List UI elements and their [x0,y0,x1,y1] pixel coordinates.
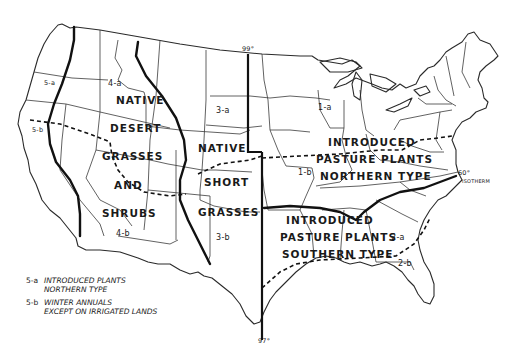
code-4a: 4-a [108,79,122,88]
svg-text:NORTHERN TYPE: NORTHERN TYPE [320,170,432,182]
code-2b: 2-b [398,259,412,268]
svg-text:NATIVE: NATIVE [116,94,164,106]
svg-text:GRASSES: GRASSES [102,150,163,162]
code-5a: 5-a [44,79,55,87]
svg-text:SOUTHERN TYPE: SOUTHERN TYPE [282,248,393,260]
legend-5b-line1: WINTER ANNUALS [44,298,112,307]
code-2a: 2-a [391,233,405,242]
code-1b: 1-b [298,168,312,177]
svg-text:DESERT: DESERT [110,122,161,134]
svg-text:NATIVE: NATIVE [198,142,246,154]
svg-text:PASTURE PLANTS: PASTURE PLANTS [316,153,433,165]
isotherm-degree: 60° [458,169,470,177]
code-1a: 1-a [318,103,332,112]
region-native-desert: NATIVE DESERT GRASSES AND SHRUBS 4-a 4-b [102,79,164,238]
svg-text:SHRUBS: SHRUBS [102,207,157,219]
svg-text:AND: AND [114,179,143,191]
code-5b: 5-b [32,126,43,134]
legend-key-5b: 5-b [26,298,38,307]
svg-text:SHORT: SHORT [204,176,249,188]
isotherm-text: ISOTHERM [462,178,490,184]
sub-boundary-3a-3b [198,156,262,174]
code-4b: 4-b [116,229,130,238]
us-grassland-regions-map: 99° 97° NATIVE DESERT GRASSES AND SHRUBS… [0,0,527,351]
legend-5a-line1: INTRODUCED PLANTS [44,276,126,285]
legend: 5-a INTRODUCED PLANTS NORTHERN TYPE 5-b … [26,276,158,316]
west-zone-boundary [48,27,80,236]
svg-text:GRASSES: GRASSES [198,206,259,218]
legend-5b-line2: EXCEPT ON IRRIGATED LANDS [44,307,158,316]
meridian-99 [248,54,262,152]
svg-text:INTRODUCED: INTRODUCED [328,136,416,148]
code-3a: 3-a [216,106,230,115]
svg-text:PASTURE PLANTS: PASTURE PLANTS [280,231,397,243]
svg-text:INTRODUCED: INTRODUCED [286,214,374,226]
region-introduced-northern: INTRODUCED PASTURE PLANTS NORTHERN TYPE … [298,103,433,182]
code-3b: 3-b [216,233,230,242]
region-introduced-southern: INTRODUCED PASTURE PLANTS SOUTHERN TYPE … [280,214,412,268]
isotherm-label: 60° ISOTHERM [458,169,490,184]
legend-key-5a: 5-a [26,276,38,285]
meridian-97-label: 97° [258,337,270,345]
west-coast-codes: 5-a 5-b [32,79,55,134]
meridian-99-label: 99° [242,45,254,53]
legend-5a-line2: NORTHERN TYPE [44,285,108,294]
